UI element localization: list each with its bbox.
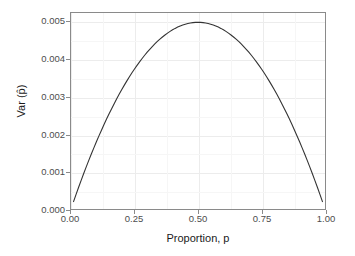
y-axis-tick-label: 0.005 (5, 16, 65, 26)
variance-curve (71, 13, 325, 209)
x-axis-tick-label: 0.25 (104, 214, 164, 224)
y-axis-title-text: Var (p̂) (15, 85, 27, 118)
y-axis-tick (66, 135, 70, 136)
x-axis-tick-label: 0.75 (232, 214, 292, 224)
x-axis-tick-label: 0.00 (40, 214, 100, 224)
y-axis-tick-label: 0.002 (5, 130, 65, 140)
y-axis-tick (66, 59, 70, 60)
x-axis-tick-label: 1.00 (296, 214, 355, 224)
y-axis-tick (66, 172, 70, 173)
x-axis-title-text: Proportion, p (167, 232, 230, 244)
y-axis-tick (66, 21, 70, 22)
y-axis-tick (66, 97, 70, 98)
y-axis-title: Var (p̂) (15, 41, 27, 161)
chart-figure: 0.0000.0010.0020.0030.0040.0050.000.250.… (0, 0, 355, 256)
y-axis-tick-label: 0.004 (5, 54, 65, 64)
x-axis-tick-label: 0.50 (168, 214, 228, 224)
y-axis-tick-label: 0.001 (5, 167, 65, 177)
y-axis-tick-label: 0.003 (5, 92, 65, 102)
plot-panel (70, 12, 326, 210)
x-axis-title: Proportion, p (70, 232, 326, 244)
